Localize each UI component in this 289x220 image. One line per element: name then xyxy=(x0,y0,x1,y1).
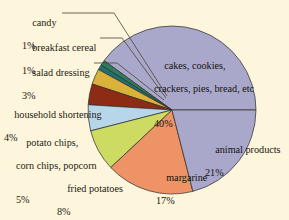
callout-label-potato-chips-line2: corn chips, popcorn xyxy=(16,160,97,171)
pie-chart-figure: candy 1% breakfast cereal 1% salad dress… xyxy=(0,0,289,220)
callout-label-potato-chips-line1: potato chips, xyxy=(26,137,78,148)
slice-label-margarine-name: margarine xyxy=(166,172,207,183)
callout-label-fried-potatoes: fried potatoes 8% xyxy=(57,172,123,220)
slice-label-cakes-line2: crackers, pies, bread, etc xyxy=(154,83,254,95)
slice-label-animal-products-percent: 21% xyxy=(205,167,281,179)
slice-label-cakes-line1: cakes, cookies, xyxy=(164,60,225,71)
slice-label-animal-products: animal products 21% xyxy=(205,132,281,202)
callout-label-breakfast-cereal-name: breakfast cereal xyxy=(32,42,96,53)
slice-label-margarine-percent: 17% xyxy=(156,195,207,207)
slice-label-animal-products-name: animal products xyxy=(215,144,280,155)
slice-label-margarine: margarine 17% xyxy=(156,160,207,220)
callout-label-fried-potatoes-name: fried potatoes xyxy=(67,183,123,194)
callout-label-fried-potatoes-percent: 8% xyxy=(57,206,123,217)
callout-label-candy-name: candy xyxy=(32,17,56,28)
callout-label-salad-dressing-name: salad dressing xyxy=(32,67,89,78)
slice-label-cakes-percent: 40% xyxy=(154,118,254,130)
callout-label-household-shortening-name: household shortening xyxy=(14,109,101,120)
